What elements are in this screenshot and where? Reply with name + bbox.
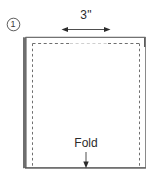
fold-diagram-figure: 1 3" Fold <box>0 0 163 178</box>
dimension-arrow-icon <box>62 27 111 32</box>
dimension-arrowhead-left-icon <box>62 27 69 32</box>
step-number-text: 1 <box>0 18 26 31</box>
fold-instruction-label: Fold <box>56 136 116 150</box>
dimension-measurement-label: 3" <box>56 8 116 22</box>
dimension-arrowhead-right-icon <box>104 27 111 32</box>
fabric-left-edge-shadow <box>24 38 26 169</box>
